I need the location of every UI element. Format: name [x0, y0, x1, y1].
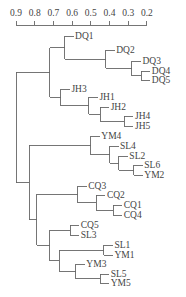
leaf-label: DQ2 [116, 45, 135, 55]
leaf-label: DQ5 [152, 75, 171, 85]
axis-tick-label: 0.7 [47, 8, 59, 18]
leaf-label: SL1 [114, 240, 130, 250]
leaf-label: DQ1 [75, 31, 94, 41]
leaf-label: JH2 [111, 102, 127, 112]
leaf-label: CQ2 [107, 190, 125, 200]
dendrogram: 0.90.80.70.60.50.40.30.2 DQ1DQ2DQ3DQ4DQ5… [0, 0, 186, 297]
leaf-label: YM4 [101, 131, 121, 141]
similarity-axis: 0.90.80.70.60.50.40.30.2 [10, 8, 153, 25]
axis-tick-label: 0.6 [66, 8, 78, 18]
leaf-label: JH1 [99, 92, 115, 102]
leaf-label: YM3 [86, 259, 106, 269]
axis-tick-label: 0.2 [141, 8, 153, 18]
leaf-label: YM1 [114, 250, 134, 260]
leaf-label: CQ1 [124, 200, 142, 210]
axis-tick-label: 0.3 [122, 8, 134, 18]
leaf-label: DQ3 [142, 56, 161, 66]
leaf-label: YM2 [144, 170, 164, 180]
leaf-label: YM5 [111, 278, 131, 288]
leaf-label: JH4 [135, 111, 151, 121]
leaf-label: SL3 [81, 230, 97, 240]
axis-tick-label: 0.5 [85, 8, 97, 18]
leaf-label: SL4 [120, 141, 136, 151]
leaf-label: CQ3 [88, 181, 106, 191]
axis-tick-label: 0.4 [104, 8, 116, 18]
axis-tick-label: 0.8 [29, 8, 41, 18]
leaf-label: SL6 [144, 160, 160, 170]
leaf-label: SL2 [129, 151, 145, 161]
leaf-label: JH3 [71, 84, 87, 94]
axis-tick-label: 0.9 [10, 8, 22, 18]
leaf-label: CQ5 [81, 220, 99, 230]
leaf-label: CQ4 [124, 210, 142, 220]
leaf-label: JH5 [135, 121, 151, 131]
